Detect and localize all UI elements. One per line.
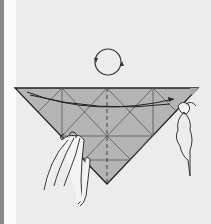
right-hand-icon [176, 102, 196, 176]
turn-over-icon [94, 49, 124, 75]
left-hand-icon [44, 132, 90, 206]
origami-diagram [0, 0, 211, 224]
